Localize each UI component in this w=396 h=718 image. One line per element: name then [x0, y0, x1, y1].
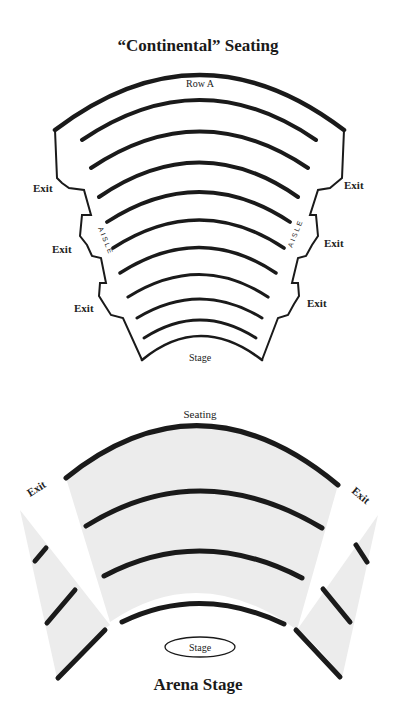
continental-stage-label: Stage: [189, 352, 212, 363]
arena-seating-label: Seating: [184, 408, 217, 420]
exit-left-3: Exit: [74, 302, 94, 314]
arena-diagram: [20, 426, 378, 678]
row-a-label: Row A: [186, 78, 215, 89]
exit-right-1: Exit: [344, 179, 364, 191]
arena-stage-title: Arena Stage: [0, 675, 396, 695]
seating-diagrams: Row A Stage AISLE AISLE Exit Exit Exit E…: [0, 0, 396, 718]
exit-left-2: Exit: [52, 243, 72, 255]
arena-exit-right: Exit: [350, 484, 373, 506]
exit-right-3: Exit: [307, 297, 327, 309]
exit-right-2: Exit: [324, 237, 344, 249]
exit-left-1: Exit: [33, 182, 53, 194]
continental-diagram: [55, 75, 344, 360]
arena-stage-label: Stage: [189, 642, 212, 653]
aisle-left-label: AISLE: [97, 226, 115, 256]
arena-exit-left: Exit: [25, 478, 48, 499]
